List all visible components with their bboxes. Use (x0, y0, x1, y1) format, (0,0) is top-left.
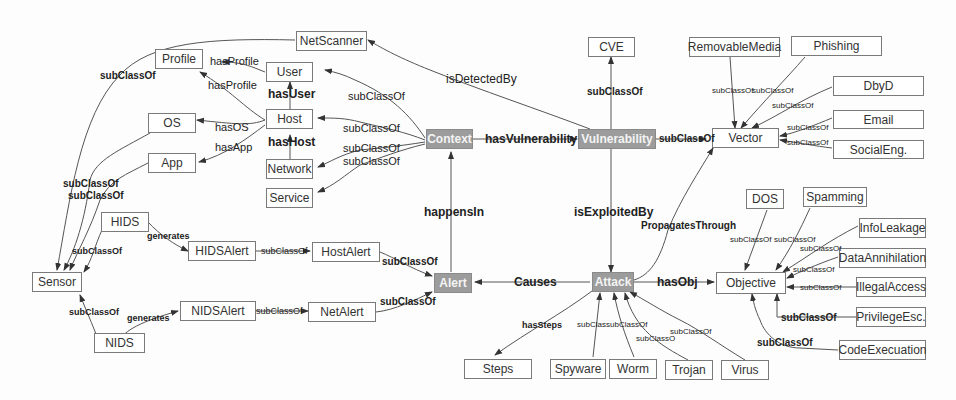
node-netalert: NetAlert (308, 302, 376, 322)
node-profile: Profile (155, 49, 203, 69)
node-trojan: Trojan (665, 360, 713, 380)
node-vulnerability: Vulnerability (578, 129, 656, 149)
edge-label-isdetectedby: isDetectedBy (446, 72, 517, 86)
node-app: App (148, 153, 196, 173)
node-phishing: Phishing (791, 36, 882, 56)
edge-label-hostalert-subclassof: subClassOf (382, 256, 438, 267)
node-hostalert: HostAlert (312, 242, 380, 262)
node-attack: Attack (592, 272, 634, 292)
edge-label-app-subclassof: subClassOf (68, 190, 124, 201)
node-context: Context (426, 129, 473, 149)
edge-label-hids-subclassof: subClassOf (72, 246, 122, 256)
node-dbyd: DbyD (833, 76, 924, 96)
edge-label-phishing-subclassof: subClassOf (752, 86, 793, 95)
node-nidsalert: NIDSAlert (180, 301, 256, 321)
edge-label-privilegeesc-subclassof: subClassOf (781, 312, 837, 323)
edge-label-hasapp: hasApp (215, 141, 252, 153)
node-service: Service (266, 188, 313, 208)
node-netscanner: NetScanner (296, 31, 367, 51)
edge-label-nids-subclassof: subClassOf (69, 307, 119, 317)
edge-label-hasuser: hasUser (268, 87, 315, 101)
node-hids: HIDS (101, 212, 149, 232)
edge-label-netalert-subclassof: subClassOf (380, 296, 436, 307)
edge-label-nidsalert-subclassof: subClassOf (256, 306, 303, 316)
edge-label-happensin: happensIn (424, 205, 484, 219)
node-virus: Virus (721, 360, 769, 380)
edge-label-os-subclassof: subClassOf (63, 178, 119, 189)
edge-label-isexploitedby: isExploitedBy (574, 205, 653, 219)
node-os: OS (148, 113, 196, 133)
edge-label-hids-generates: generates (147, 231, 190, 241)
edge-label-socialeng-subclassof: subClassOf (787, 138, 828, 147)
node-worm: Worm (609, 359, 657, 379)
node-alert: Alert (434, 273, 472, 293)
node-removablemedia: RemovableMedia (689, 37, 780, 57)
edge-label-virus-subclassof: subClassOf (670, 327, 711, 336)
node-hidsalert: HIDSAlert (188, 241, 256, 261)
edge-label-vector-subclassof: subClassOf (659, 133, 715, 144)
node-steps: Steps (464, 359, 532, 379)
node-spamming: Spamming (803, 187, 867, 207)
edge-label-dos-subclassof: subClassOf (730, 235, 771, 244)
edge-label-network-subclassof: subClassOf (343, 142, 400, 154)
edge-label-host-hasprofile: hasProfile (208, 79, 257, 91)
node-vector: Vector (712, 128, 779, 148)
node-user: User (266, 62, 313, 82)
node-dataannihilation: DataAnnihilation (839, 248, 926, 268)
edge-label-infoleakage-subclassof: subClassOf (800, 244, 841, 253)
node-privilegeesc: PrivilegeEsc. (856, 307, 926, 327)
edge-label-hasvulnerability: hasVulnerability (485, 132, 577, 146)
edge-label-netscanner-subclassof: subClassOf (100, 70, 156, 81)
edge-label-cve-subclassof: subClassOf (587, 86, 643, 97)
edge-label-hashost: hasHost (268, 135, 315, 149)
edge-label-service-subclassof: subClassOf (343, 155, 400, 167)
node-cve: CVE (588, 37, 635, 57)
edge-label-worm-subclassof: subClassOf (606, 320, 647, 329)
edge-label-codeexecuation-subclassof: subClassOf (757, 337, 813, 348)
edge-label-email-subclassof: subClassOf (787, 123, 828, 132)
node-spyware: Spyware (550, 359, 606, 379)
edge-label-user-subclassof: subClassOf (348, 90, 405, 102)
node-sensor: Sensor (32, 272, 82, 292)
edge-label-illegalaccess-subclassof: subClassOf (800, 283, 841, 292)
node-illegalaccess: IllegalAccess (856, 277, 926, 297)
node-dos: DOS (746, 189, 784, 209)
node-email: Email (833, 110, 924, 129)
edge-label-dbyd-subclassof: subClassOf (772, 101, 813, 110)
edge-label-removablemedia-subclassof: subClassOf (712, 86, 753, 95)
edge-label-dataannihilation-subclassof: subClassOf (793, 265, 834, 274)
edge-label-hidsalert-subclassof: subClassOf (261, 246, 308, 256)
node-socialeng: SocialEng. (833, 140, 924, 159)
node-codeexecuation: CodeExecuation (839, 340, 926, 360)
node-network: Network (266, 159, 313, 179)
edge-label-hasos: hasOS (215, 121, 249, 133)
node-objective: Objective (716, 272, 786, 294)
edge-label-host-subclassof: subClassOf (343, 122, 400, 134)
edge-label-spamming-subclassof: subClassOf (774, 235, 815, 244)
edge-label-user-hasprofile: hasProfile (210, 55, 259, 67)
edge-label-causes: Causes (514, 275, 557, 289)
edge-label-spyware-subclassof: subClas (577, 320, 606, 329)
edge-label-propagatesthrough: PropagatesThrough (641, 220, 736, 231)
node-nids: NIDS (94, 333, 145, 353)
edge-label-hasobj: hasObj (657, 275, 698, 289)
ontology-diagram: Context Vulnerability Alert Attack NetSc… (0, 0, 956, 400)
node-host: Host (266, 109, 313, 129)
edge-label-hassteps: hasSteps (522, 320, 562, 330)
node-infoleakage: InfoLeakage (859, 218, 926, 238)
edge-label-nids-generates: generates (127, 313, 170, 323)
